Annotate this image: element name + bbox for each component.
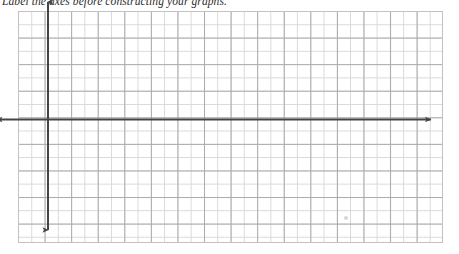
graph-grid-area (18, 11, 443, 243)
stray-pencil-mark-icon (344, 216, 348, 220)
pencil-marks-layer (18, 11, 443, 243)
instruction-text: Label the axes before constructing your … (2, 0, 457, 9)
worksheet-page: Label the axes before constructing your … (0, 0, 459, 254)
